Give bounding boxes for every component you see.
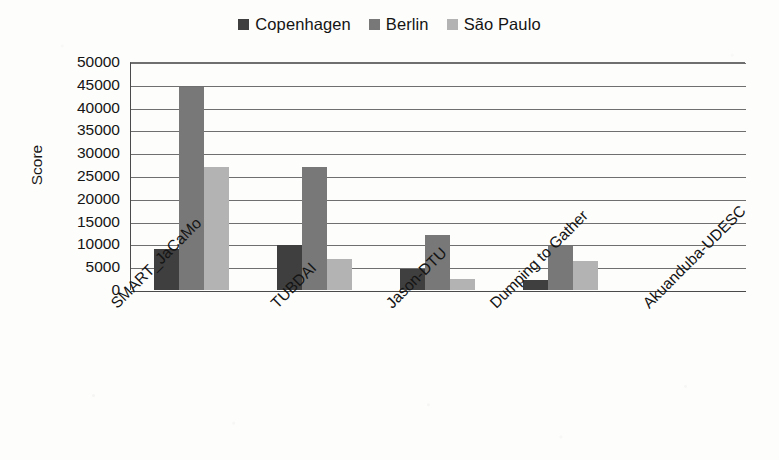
x-axis-category-label: Akuanduba-UDESC [640, 203, 748, 311]
x-axis-category-label: Dumping to Gather [487, 207, 591, 311]
x-axis-category-label: TUBDAI [268, 260, 319, 311]
x-axis-category-label: Jason-DTU [383, 245, 449, 311]
x-axis-labels: SMART_JaCaMoTUBDAIJason-DTUDumping to Ga… [0, 0, 779, 460]
x-axis-category-label: SMART_JaCaMo [108, 215, 204, 311]
